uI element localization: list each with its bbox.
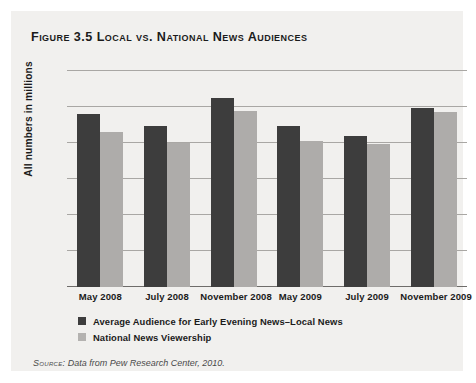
bar-july-2008-series-2 xyxy=(167,143,190,287)
x-tick-label-november-2009: November 2009 xyxy=(400,291,467,302)
bar-november-2008-series-2 xyxy=(234,111,257,287)
bar-may-2008-series-2 xyxy=(100,132,123,287)
x-tick-label-may-2008: May 2008 xyxy=(67,291,134,302)
bar-november-2008-series-1 xyxy=(211,98,234,287)
bar-may-2008-series-1 xyxy=(77,114,100,287)
figure-panel: Figure 3.5 Local vs. National News Audie… xyxy=(11,11,463,371)
source-label: Source: xyxy=(33,358,65,368)
x-tick-label-july-2008: July 2008 xyxy=(134,291,201,302)
source-note: Source: Data from Pew Research Center, 2… xyxy=(33,358,225,368)
source-text: Data from Pew Research Center, 2010. xyxy=(65,358,225,368)
legend-item-national-news: National News Viewership xyxy=(78,330,343,344)
x-tick-label-july-2009: July 2009 xyxy=(334,291,401,302)
gridline-10 xyxy=(67,214,467,215)
legend-item-local-news: Average Audience for Early Evening News–… xyxy=(78,314,343,328)
bar-july-2009-series-2 xyxy=(367,144,390,287)
gridline-15 xyxy=(67,178,467,179)
bar-july-2009-series-1 xyxy=(344,136,367,287)
gridline-0 xyxy=(67,286,467,287)
bar-november-2009-series-2 xyxy=(434,112,457,287)
gridline-25 xyxy=(67,106,467,107)
figure-title: Figure 3.5 Local vs. National News Audie… xyxy=(31,30,307,44)
gridline-20 xyxy=(67,142,467,143)
bar-may-2009-series-2 xyxy=(300,141,323,287)
y-axis-title: All numbers in millions xyxy=(23,49,34,189)
legend-swatch-icon-national-news xyxy=(78,333,86,341)
gridline-30 xyxy=(67,70,467,71)
bar-july-2008-series-1 xyxy=(144,126,167,287)
x-tick-label-may-2009: May 2009 xyxy=(267,291,334,302)
plot-area xyxy=(67,71,467,287)
bar-may-2009-series-1 xyxy=(277,126,300,287)
x-tick-label-november-2008: November 2008 xyxy=(200,291,267,302)
legend-swatch-icon-local-news xyxy=(78,317,86,325)
legend-label-national-news: National News Viewership xyxy=(93,332,211,343)
gridline-5 xyxy=(67,250,467,251)
chart-legend: Average Audience for Early Evening News–… xyxy=(78,314,343,346)
legend-label-local-news: Average Audience for Early Evening News–… xyxy=(93,316,343,327)
bar-november-2009-series-1 xyxy=(411,108,434,287)
